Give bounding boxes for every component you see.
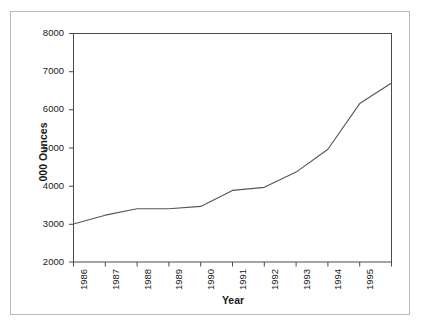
plot-area-frame <box>74 34 392 263</box>
line-chart-figure: 8000 7000 6000 5000 4000 3000 2000 1986 … <box>0 0 426 333</box>
y-tick-label-8000: 8000 <box>24 28 64 38</box>
x-tick-label-1993: 1993 <box>301 254 312 290</box>
x-axis-title: Year <box>73 294 393 307</box>
y-tick-label-3000: 3000 <box>24 219 64 229</box>
x-tick-label-1986: 1986 <box>78 254 89 290</box>
x-axis-ticks <box>74 262 392 267</box>
x-tick-label-1991: 1991 <box>237 254 248 290</box>
y-axis-title: 000 Ounces <box>36 92 50 212</box>
x-tick-label-1987: 1987 <box>110 254 121 290</box>
x-tick-label-1988: 1988 <box>142 254 153 290</box>
x-tick-label-1989: 1989 <box>173 254 184 290</box>
x-tick-label-1995: 1995 <box>364 254 375 290</box>
y-tick-label-2000: 2000 <box>24 257 64 267</box>
x-tick-label-1990: 1990 <box>205 254 216 290</box>
x-tick-label-1992: 1992 <box>269 254 280 290</box>
x-tick-label-1994: 1994 <box>332 254 343 290</box>
y-tick-label-7000: 7000 <box>24 66 64 76</box>
y-axis-ticks <box>69 34 74 263</box>
chart-page: 8000 7000 6000 5000 4000 3000 2000 1986 … <box>0 0 426 333</box>
